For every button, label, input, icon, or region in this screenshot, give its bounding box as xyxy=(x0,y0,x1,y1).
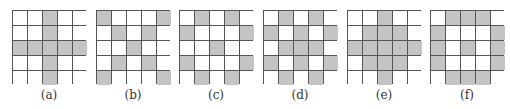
grid-cell-r1-c2-empty xyxy=(210,26,224,40)
grid-cell-r0-c3-shaded xyxy=(476,11,490,25)
grid-cell-r2-c4-empty xyxy=(240,41,254,55)
grid-cell-r1-c0-empty xyxy=(13,26,27,40)
grid-cell-r1-c2-shaded xyxy=(294,26,308,40)
panel-b: (b) xyxy=(96,10,170,84)
grid-cell-r1-c3-empty xyxy=(476,26,490,40)
grid-cell-r2-c2-shaded xyxy=(461,41,475,55)
grid-cell-r0-c4-empty xyxy=(73,11,87,25)
label-a: (a) xyxy=(12,88,86,102)
grid-cell-r4-c1-empty xyxy=(112,71,126,85)
grid-cell-r1-c4-shaded xyxy=(240,26,254,40)
grid-cell-r4-c3-shaded xyxy=(476,71,490,85)
grid-cell-r3-c3-empty xyxy=(58,56,72,70)
grid-cell-r2-c1-empty xyxy=(446,41,460,55)
grid-cell-r4-c0-empty xyxy=(348,71,362,85)
grid-cell-r1-c2-shaded xyxy=(378,26,392,40)
grid-cell-r2-c3-empty xyxy=(142,41,156,55)
grid-cell-r3-c3-shaded xyxy=(142,56,156,70)
grid-cell-r2-c1-shaded xyxy=(279,41,293,55)
grid-c xyxy=(179,10,253,84)
panel-c: (c) xyxy=(179,10,253,84)
grid-cell-r2-c3-shaded xyxy=(58,41,72,55)
grid-cell-r3-c4-shaded xyxy=(240,56,254,70)
grid-cell-r3-c2-empty xyxy=(210,56,224,70)
grid-cell-r3-c3-empty xyxy=(309,56,323,70)
label-f: (f) xyxy=(430,88,504,102)
grid-cell-r2-c0-empty xyxy=(180,41,194,55)
grid-cell-r0-c1-empty xyxy=(363,11,377,25)
grid-cell-r4-c0-empty xyxy=(431,71,445,85)
grid-cell-r2-c2-shaded xyxy=(210,41,224,55)
grid-cell-r3-c2-empty xyxy=(127,56,141,70)
grid-a xyxy=(12,10,86,84)
grid-cell-r3-c3-empty xyxy=(476,56,490,70)
grid-cell-r0-c2-empty xyxy=(294,11,308,25)
grid-cell-r3-c2-shaded xyxy=(294,56,308,70)
grid-cell-r0-c1-shaded xyxy=(195,11,209,25)
grid-cell-r1-c1-shaded xyxy=(363,26,377,40)
grid-cell-r3-c1-empty xyxy=(195,56,209,70)
grid-cell-r0-c1-empty xyxy=(28,11,42,25)
grid-cell-r2-c4-shaded xyxy=(408,41,422,55)
grid-cell-r0-c3-empty xyxy=(58,11,72,25)
label-b: (b) xyxy=(96,88,170,102)
grid-cell-r1-c0-empty xyxy=(348,26,362,40)
grid-cell-r2-c3-empty xyxy=(225,41,239,55)
grid-cell-r3-c4-empty xyxy=(73,56,87,70)
grid-cell-r2-c1-shaded xyxy=(28,41,42,55)
grid-cell-r2-c4-shaded xyxy=(491,41,505,55)
grid-cell-r4-c2-empty xyxy=(210,71,224,85)
grid-cell-r4-c0-shaded xyxy=(97,71,111,85)
grid-cell-r1-c1-empty xyxy=(28,26,42,40)
grid-cell-r3-c4-shaded xyxy=(324,56,338,70)
grid-cell-r2-c4-shaded xyxy=(73,41,87,55)
grid-cell-r2-c4-empty xyxy=(157,41,171,55)
grid-cell-r4-c0-empty xyxy=(264,71,278,85)
grid-cell-r0-c0-empty xyxy=(348,11,362,25)
grid-cell-r0-c1-empty xyxy=(112,11,126,25)
grid-cell-r1-c4-empty xyxy=(408,26,422,40)
grid-cell-r2-c2-shaded xyxy=(43,41,57,55)
grid-cell-r3-c2-shaded xyxy=(43,56,57,70)
grid-cell-r0-c4-empty xyxy=(240,11,254,25)
grid-cell-r0-c2-shaded xyxy=(43,11,57,25)
grid-cell-r2-c1-shaded xyxy=(363,41,377,55)
grid-cell-r0-c0-empty xyxy=(431,11,445,25)
grid-cell-r2-c3-empty xyxy=(476,41,490,55)
grid-cell-r1-c2-empty xyxy=(127,26,141,40)
grid-cell-r1-c3-shaded xyxy=(393,26,407,40)
grid-cell-r0-c0-empty xyxy=(264,11,278,25)
grid-f xyxy=(430,10,504,84)
grid-e xyxy=(347,10,421,84)
grid-d xyxy=(263,10,337,84)
grid-cell-r2-c3-shaded xyxy=(393,41,407,55)
grid-cell-r4-c1-empty xyxy=(28,71,42,85)
grid-cell-r0-c3-empty xyxy=(142,11,156,25)
grid-cell-r1-c1-empty xyxy=(446,26,460,40)
grid-cell-r3-c1-empty xyxy=(446,56,460,70)
grid-cell-r0-c3-empty xyxy=(393,11,407,25)
grid-cell-r4-c3-shaded xyxy=(309,71,323,85)
grid-cell-r1-c4-empty xyxy=(157,26,171,40)
grid-cell-r4-c4-empty xyxy=(73,71,87,85)
grid-cell-r2-c0-empty xyxy=(264,41,278,55)
grid-cell-r4-c2-shaded xyxy=(461,71,475,85)
grid-cell-r2-c2-shaded xyxy=(294,41,308,55)
grid-cell-r0-c0-empty xyxy=(13,11,27,25)
grid-cell-r0-c2-shaded xyxy=(461,11,475,25)
grid-cell-r4-c2-empty xyxy=(127,71,141,85)
grid-cell-r2-c0-shaded xyxy=(13,41,27,55)
grid-cell-r2-c4-empty xyxy=(324,41,338,55)
grid-cell-r2-c0-empty xyxy=(97,41,111,55)
grid-cell-r3-c0-shaded xyxy=(180,56,194,70)
grid-cell-r3-c4-empty xyxy=(157,56,171,70)
grid-cell-r1-c2-shaded xyxy=(43,26,57,40)
grid-cell-r2-c1-empty xyxy=(195,41,209,55)
grid-cell-r1-c0-empty xyxy=(97,26,111,40)
grid-cell-r0-c4-shaded xyxy=(157,11,171,25)
grid-cell-r1-c1-shaded xyxy=(112,26,126,40)
grid-cell-r2-c0-shaded xyxy=(348,41,362,55)
grid-cell-r0-c2-empty xyxy=(210,11,224,25)
grid-cell-r0-c1-shaded xyxy=(446,11,460,25)
grid-cell-r0-c1-shaded xyxy=(279,11,293,25)
